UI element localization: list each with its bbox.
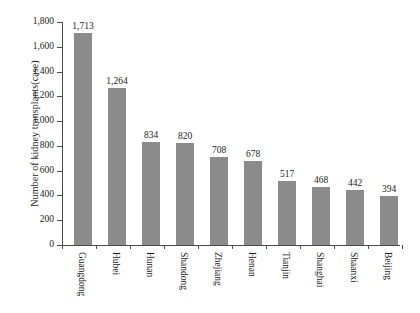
bar-group: 442 (338, 22, 372, 245)
x-tick-mark (232, 245, 233, 249)
x-axis-category-label: Beijing (383, 252, 393, 313)
bar (108, 88, 126, 245)
x-axis-category-label: Henan (247, 252, 257, 313)
x-axis-category-label: Shaanxi (349, 252, 359, 313)
bar (244, 161, 262, 245)
x-tick-mark (402, 245, 403, 249)
x-tick-mark (96, 245, 97, 249)
bar-group: 517 (270, 22, 304, 245)
bar (312, 187, 330, 245)
x-tick-mark (130, 245, 131, 249)
y-tick-label: 400 (6, 190, 54, 200)
y-tick-label: 1,600 (6, 42, 54, 52)
bar-group: 468 (304, 22, 338, 245)
bar (380, 196, 398, 245)
x-axis-category-label: Guangdong (77, 252, 87, 313)
y-tick-label: 200 (6, 215, 54, 225)
x-tick-mark (62, 245, 63, 249)
x-tick-mark (266, 245, 267, 249)
bar-group: 678 (236, 22, 270, 245)
bar (176, 143, 194, 245)
x-axis-line (62, 245, 400, 246)
bar (278, 181, 296, 245)
x-tick-mark (164, 245, 165, 249)
plot-area: 1,7131,264834820708678517468442394 (62, 22, 400, 245)
bar-value-label: 394 (364, 184, 414, 194)
y-axis-title: Number of kidney transplants(case) (29, 29, 40, 239)
x-axis-category-label: Hunan (145, 252, 155, 313)
x-axis-category-label: Tianjin (281, 252, 291, 313)
y-tick-label: 0 (6, 240, 54, 250)
x-tick-mark (368, 245, 369, 249)
x-axis-category-label: Shandong (179, 252, 189, 313)
y-tick-label: 1,800 (6, 17, 54, 27)
bar (346, 190, 364, 245)
bar-chart: Number of kidney transplants(case) 02004… (0, 0, 420, 313)
bar (142, 142, 160, 245)
y-tick-label: 1,400 (6, 67, 54, 77)
x-axis-category-label: Zhejiang (213, 252, 223, 313)
bar-group: 708 (202, 22, 236, 245)
y-tick-label: 1,200 (6, 91, 54, 101)
x-tick-mark (334, 245, 335, 249)
bar-group: 394 (372, 22, 406, 245)
x-axis-category-label: Hubei (111, 252, 121, 313)
bar (74, 33, 92, 245)
bar (210, 157, 228, 245)
y-tick-label: 600 (6, 166, 54, 176)
x-tick-mark (300, 245, 301, 249)
x-axis-category-label: Shanghai (315, 252, 325, 313)
bar-group: 1,713 (66, 22, 100, 245)
y-tick-label: 800 (6, 141, 54, 151)
bar-group: 820 (168, 22, 202, 245)
y-tick-label: 1,000 (6, 116, 54, 126)
x-tick-mark (198, 245, 199, 249)
